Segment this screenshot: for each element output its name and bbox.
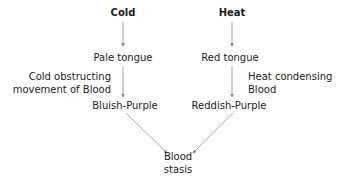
cold-mechanism-line1: Cold obstructing: [29, 71, 111, 83]
arrow-bluish-to-stasis: [126, 113, 167, 153]
heat-mechanism-line2: Blood: [248, 84, 276, 96]
pale-tongue-label: Pale tongue: [93, 52, 152, 64]
arrow-reddish-to-stasis: [193, 113, 233, 153]
heat-label: Heat: [219, 7, 246, 19]
blood-stasis-line1: Blood: [164, 151, 192, 163]
heat-mechanism-line1: Heat condensing: [248, 71, 332, 83]
red-tongue-label: Red tongue: [201, 52, 258, 64]
blood-stasis-line2: stasis: [164, 164, 192, 176]
bluish-purple-label: Bluish-Purple: [92, 100, 158, 112]
cold-label: Cold: [111, 7, 136, 19]
reddish-purple-label: Reddish-Purple: [192, 100, 267, 112]
cold-mechanism-line2: movement of Blood: [13, 84, 111, 96]
